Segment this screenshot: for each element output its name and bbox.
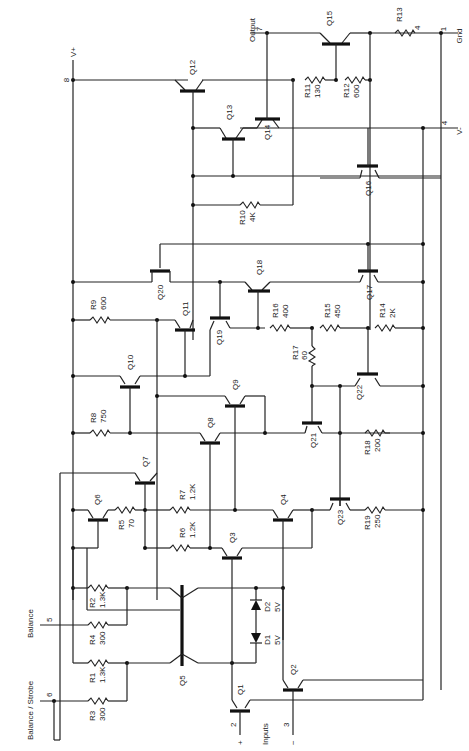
vminus-rail: 4 V- xyxy=(240,120,464,700)
r14-name: R14 xyxy=(378,303,387,318)
transistor-q23: Q23 R19 250 xyxy=(312,499,425,530)
r5-value: 70 xyxy=(127,519,136,528)
q9-label: Q9 xyxy=(231,379,240,390)
r11-name: R11 xyxy=(303,83,312,98)
q7-label: Q7 xyxy=(141,456,150,467)
pin-1-number: 1 xyxy=(439,26,448,31)
diode-d1: D1 5V xyxy=(250,625,282,663)
r3-name: R3 xyxy=(88,710,97,721)
transistor-q4: Q4 xyxy=(273,494,314,640)
r2-value: 1.3K xyxy=(98,591,107,608)
r3-value: 300 xyxy=(98,707,107,721)
q3-label: Q3 xyxy=(228,532,237,543)
r7-name: R7 xyxy=(178,489,187,500)
r15-value: 450 xyxy=(333,304,342,318)
q8-label: Q8 xyxy=(206,417,215,428)
r16-value: 400 xyxy=(281,304,290,318)
resistor-r5: R5 70 xyxy=(108,507,147,530)
pin-5-balance: 5 Balance xyxy=(26,609,54,638)
q6-label: Q6 xyxy=(93,494,102,505)
output-node: 7 Output xyxy=(248,17,320,115)
q10-label: Q10 xyxy=(126,354,135,370)
r19-name: R19 xyxy=(363,515,372,530)
q23-label: Q23 xyxy=(336,509,345,525)
transistor-q17: Q17 xyxy=(358,244,425,300)
transistor-q1: Q1 xyxy=(230,684,423,735)
d1-value: 5V xyxy=(273,635,282,645)
vplus-label: V+ xyxy=(69,47,78,57)
diode-d2: D2 5V xyxy=(250,586,282,625)
r17-value: 60 xyxy=(300,351,309,360)
balance-label: Balance xyxy=(26,609,35,638)
q20-label: Q20 xyxy=(156,284,165,300)
inputs-label: Inputs xyxy=(261,723,270,745)
d1-name: D1 xyxy=(263,634,272,645)
q11-label: Q11 xyxy=(181,301,190,316)
gnd-label: Gnd xyxy=(455,28,464,43)
transistor-q3: Q3 xyxy=(222,532,312,590)
d2-value: 5V xyxy=(273,602,282,612)
r2-name: R2 xyxy=(88,597,97,608)
transistor-q5: Q5 xyxy=(87,548,283,686)
pin-6-number: 6 xyxy=(45,692,54,697)
r8-value: 750 xyxy=(99,409,108,423)
r19-value: 250 xyxy=(373,514,382,528)
transistor-q6: Q6 xyxy=(71,494,108,550)
r5-name: R5 xyxy=(117,519,126,530)
balance-strobe-label: Balance / Strobe xyxy=(26,680,35,740)
r13-value: 4 xyxy=(413,25,422,30)
r12-name: R12 xyxy=(342,83,351,98)
r14-r15-r16-chain: R16 400 R15 450 R14 2K xyxy=(230,303,425,331)
r12-value: 600 xyxy=(352,84,361,98)
transistor-q21: Q21 R18 200 xyxy=(302,386,425,506)
inputs: 2 + 3 − Inputs xyxy=(229,722,298,745)
r16-name: R16 xyxy=(271,303,280,318)
vminus-label: V- xyxy=(455,127,464,135)
r9-value: 600 xyxy=(99,296,108,310)
transistor-q12: Q12 xyxy=(175,59,205,340)
r8-name: R8 xyxy=(89,412,98,423)
r10-value: 4K xyxy=(248,212,257,222)
q18-label: Q18 xyxy=(255,259,264,275)
transistor-q13: Q13 xyxy=(191,104,245,176)
r6-value: 1.2K xyxy=(188,521,197,538)
q14-label: Q14 xyxy=(263,124,272,140)
r7-value: 1.2K xyxy=(188,483,197,500)
input-plus-number: 2 xyxy=(229,722,238,727)
circuit-schematic: 8 V+ 1 Gnd 4 V- 7 Output Q15 R13 xyxy=(0,0,469,751)
pin-4-number: 4 xyxy=(440,120,449,125)
q19-label: Q19 xyxy=(215,329,224,345)
transistor-q2: Q2 xyxy=(283,664,423,735)
transistor-q19: Q19 xyxy=(210,282,230,376)
r4-name: R4 xyxy=(88,634,97,645)
q1-label: Q1 xyxy=(236,684,245,695)
q12-label: Q12 xyxy=(188,59,197,75)
transistor-q15: Q15 xyxy=(320,10,372,80)
r14-value: 2K xyxy=(388,308,397,318)
q22-label: Q22 xyxy=(355,384,364,400)
transistor-q11: Q11 xyxy=(175,301,195,376)
q16-label: Q16 xyxy=(364,180,373,196)
r6-name: R6 xyxy=(178,527,187,538)
r18-value: 200 xyxy=(373,438,382,452)
transistor-q7: Q7 xyxy=(60,456,157,740)
resistor-r17: R17 60 xyxy=(291,328,355,388)
resistor-r8: R8 750 xyxy=(71,409,200,436)
r13-name: R13 xyxy=(395,7,404,22)
input-plus-sign: + xyxy=(236,740,245,745)
transistor-q20: Q20 xyxy=(71,271,245,300)
r11-r12-node: R11 130 R12 600 xyxy=(202,33,372,330)
input-minus-sign: − xyxy=(289,740,298,745)
pin-5-number: 5 xyxy=(45,617,54,622)
q13-label: Q13 xyxy=(225,104,234,120)
q15-label: Q15 xyxy=(325,10,334,26)
q2-label: Q2 xyxy=(289,664,298,675)
r17-name: R17 xyxy=(291,345,300,360)
r10-name: R10 xyxy=(238,210,247,225)
r1-name: R1 xyxy=(88,672,97,683)
q4-label: Q4 xyxy=(279,494,288,505)
r4-value: 300 xyxy=(98,631,107,645)
vplus-rail: 8 V+ xyxy=(62,47,188,600)
r18-name: R18 xyxy=(363,440,372,455)
pin-6-balance-strobe: 6 Balance / Strobe xyxy=(26,680,54,740)
